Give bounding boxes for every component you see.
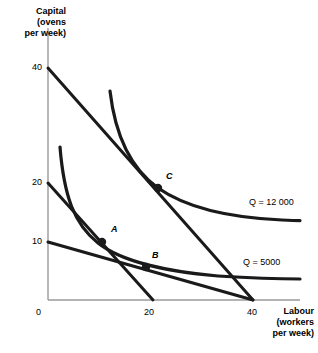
y-axis-title-line-3: per week) bbox=[0, 28, 66, 39]
x-axis-title: Labour (workers per week) bbox=[202, 306, 314, 339]
y-tick-20: 20 bbox=[28, 177, 42, 187]
x-axis-title-line-3: per week) bbox=[202, 328, 314, 339]
isocost-flat-line bbox=[48, 242, 253, 300]
point-marker-c bbox=[154, 184, 162, 192]
y-axis-title-line-2: (ovens bbox=[0, 17, 66, 28]
x-axis-title-line-1: Labour bbox=[202, 306, 314, 317]
x-axis-title-line-2: (workers bbox=[202, 317, 314, 328]
isoquant-isocost-chart bbox=[0, 0, 318, 353]
x-tick-20: 20 bbox=[144, 307, 154, 317]
point-label-b: B bbox=[152, 250, 159, 260]
y-axis-title-line-1: Capital bbox=[0, 6, 66, 17]
isoquant-q5000-label: Q = 5000 bbox=[243, 257, 280, 267]
y-tick-10: 10 bbox=[28, 236, 42, 246]
point-marker-b bbox=[142, 263, 150, 271]
point-marker-a bbox=[98, 238, 106, 246]
isoquant-q12000-label: Q = 12 000 bbox=[249, 197, 294, 207]
x-tick-0: 0 bbox=[36, 307, 41, 317]
y-tick-40: 40 bbox=[28, 62, 42, 72]
point-label-c: C bbox=[166, 171, 173, 181]
y-axis-title: Capital (ovens per week) bbox=[0, 6, 66, 39]
point-label-a: A bbox=[111, 224, 118, 234]
